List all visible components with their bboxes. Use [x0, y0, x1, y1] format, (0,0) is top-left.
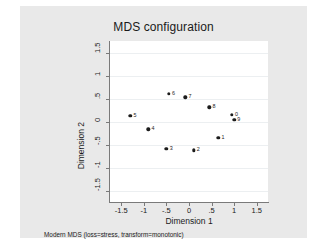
y-tick-mark — [106, 76, 109, 77]
gridline-y-0 — [110, 122, 268, 123]
data-point — [129, 114, 132, 117]
mds-configuration-figure: MDS configuration 5436728109 -1.5-1-.50.… — [0, 0, 325, 251]
data-point-label: 2 — [197, 148, 200, 153]
y-axis-title: Dimension 2 — [77, 122, 86, 169]
graph-canvas: MDS configuration 5436728109 -1.5-1-.50.… — [20, 6, 307, 238]
y-tick-mark — [106, 191, 109, 192]
x-axis-title: Dimension 1 — [110, 217, 268, 226]
data-point — [217, 136, 220, 139]
x-tick-label: 0 — [187, 207, 191, 215]
y-tick-mark — [106, 145, 109, 146]
data-point-label: 5 — [134, 113, 137, 118]
data-point-label: 7 — [189, 94, 192, 99]
page-title: MDS configuration — [20, 20, 307, 34]
gridline-y-1 — [110, 76, 268, 77]
data-point-label: 4 — [152, 127, 155, 132]
y-tick-mark — [106, 99, 109, 100]
figure-note: Modern MDS (loss=stress, transform=monot… — [44, 232, 184, 238]
y-tick-mark — [106, 122, 109, 123]
y-axis-line — [109, 41, 110, 203]
gridline-y--1.5 — [110, 191, 268, 192]
data-point — [208, 106, 211, 109]
x-tick-label: .5 — [208, 207, 214, 215]
data-point — [230, 113, 233, 116]
data-point-label: 9 — [237, 117, 240, 122]
plot-region: 5436728109 — [110, 41, 268, 202]
data-point-label: 6 — [172, 91, 175, 96]
data-point — [165, 147, 168, 150]
gridline-y--1 — [110, 168, 268, 169]
x-tick-label: -.5 — [162, 207, 171, 215]
data-point — [147, 128, 150, 131]
y-tick-mark — [106, 168, 109, 169]
gridline-y--.5 — [110, 145, 268, 146]
x-tick-label: 1.5 — [251, 207, 261, 215]
data-point-label: 8 — [213, 105, 216, 110]
data-point-label: 1 — [222, 135, 225, 140]
data-point — [192, 149, 195, 152]
y-tick-mark — [106, 53, 109, 54]
x-tick-label: -1.5 — [115, 207, 128, 215]
data-point — [167, 92, 170, 95]
x-tick-label: -1 — [141, 207, 148, 215]
gridline-y-1.5 — [110, 53, 268, 54]
data-point-label: 3 — [170, 146, 173, 151]
x-tick-label: 1 — [232, 207, 236, 215]
